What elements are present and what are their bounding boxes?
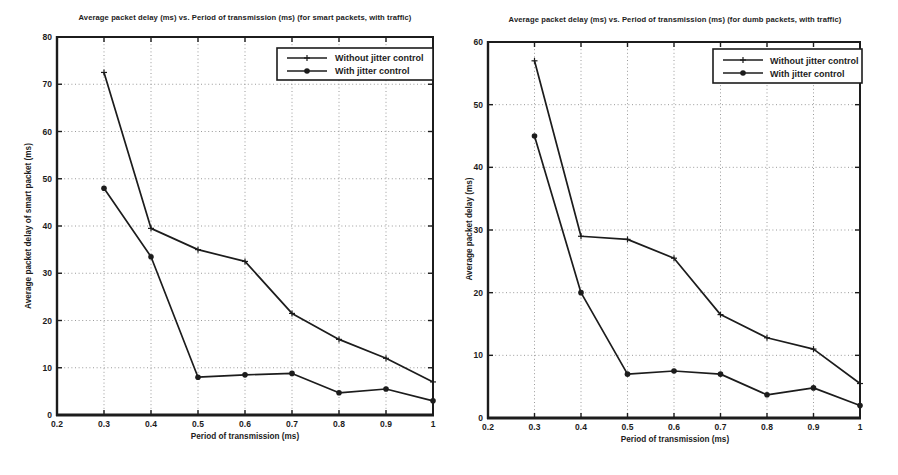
chart-smart-packets: 0.20.30.40.50.60.70.80.91010203040506070…: [0, 0, 449, 475]
chart-canvas-dumb-packets: 0.20.30.40.50.60.70.80.910102030405060 A…: [449, 0, 898, 475]
chart-plot-group: 0.20.30.40.50.60.70.80.91010203040506070…: [43, 32, 436, 429]
y-axis-label: Average packet delay (ms): [465, 177, 474, 280]
chart-canvas-smart-packets: 0.20.30.40.50.60.70.80.91010203040506070…: [0, 0, 449, 475]
y-tick-label: 80: [43, 32, 53, 42]
x-tick-label: 0.7: [715, 422, 727, 432]
x-axis-label: Period of transmission (ms): [621, 435, 730, 444]
y-tick-label: 10: [474, 350, 484, 360]
x-tick-label: 1: [858, 422, 863, 432]
series-marker-with-jitter: [718, 371, 724, 377]
x-tick-label: 0.8: [761, 422, 773, 432]
x-tick-label: 0.9: [380, 419, 392, 429]
y-tick-label: 30: [43, 268, 53, 278]
chart-plot-group: 0.20.30.40.50.60.70.80.910102030405060: [474, 37, 863, 432]
y-tick-label: 30: [474, 225, 484, 235]
scanned-figure-page: 0.20.30.40.50.60.70.80.91010203040506070…: [0, 0, 898, 475]
legend-entry-without-jitter: Without jitter control: [770, 56, 858, 66]
x-tick-label: 1: [431, 419, 436, 429]
series-marker-with-jitter: [430, 398, 436, 404]
y-tick-label: 40: [474, 162, 484, 172]
y-tick-label: 60: [474, 37, 484, 47]
series-marker-with-jitter: [383, 386, 389, 392]
legend-sample-marker: [304, 68, 310, 74]
series-marker-with-jitter: [532, 133, 538, 139]
x-tick-label: 0.5: [622, 422, 634, 432]
series-marker-with-jitter: [101, 185, 107, 191]
legend-entry-without-jitter: Without jitter control: [335, 53, 423, 63]
x-tick-label: 0.8: [333, 419, 345, 429]
chart-title: Average packet delay (ms) vs. Period of …: [79, 13, 412, 22]
x-tick-label: 0.7: [286, 419, 298, 429]
y-axis-label: Average packet delay of smart packet (ms…: [24, 143, 33, 309]
chart-title: Average packet delay (ms) vs. Period of …: [509, 15, 842, 24]
series-marker-with-jitter: [578, 290, 584, 296]
legend-entry-with-jitter: With jitter control: [335, 66, 409, 76]
x-tick-label: 0.3: [529, 422, 541, 432]
x-tick-label: 0.2: [482, 422, 494, 432]
y-tick-label: 50: [474, 100, 484, 110]
series-marker-with-jitter: [671, 368, 677, 374]
legend-entry-with-jitter: With jitter control: [770, 69, 844, 79]
x-tick-label: 0.5: [192, 419, 204, 429]
series-marker-with-jitter: [289, 371, 295, 377]
x-tick-label: 0.9: [808, 422, 820, 432]
series-line-with-jitter: [104, 188, 433, 401]
y-tick-label: 60: [43, 127, 53, 137]
series-line-with-jitter: [535, 136, 861, 405]
series-marker-with-jitter: [195, 374, 201, 380]
y-tick-label: 20: [43, 316, 53, 326]
series-marker-with-jitter: [811, 385, 817, 391]
y-tick-label: 0: [47, 410, 52, 420]
x-axis-label: Period of transmission (ms): [191, 432, 300, 441]
series-marker-with-jitter: [336, 390, 342, 396]
legend-sample-marker: [740, 70, 746, 76]
series-marker-with-jitter: [857, 403, 863, 409]
y-tick-label: 50: [43, 174, 53, 184]
y-tick-label: 20: [474, 288, 484, 298]
y-tick-label: 40: [43, 221, 53, 231]
series-marker-with-jitter: [242, 372, 248, 378]
x-tick-label: 0.2: [51, 419, 63, 429]
y-tick-label: 70: [43, 79, 53, 89]
chart-dumb-packets: 0.20.30.40.50.60.70.80.910102030405060 A…: [449, 0, 898, 475]
y-tick-label: 0: [478, 413, 483, 423]
x-tick-label: 0.4: [575, 422, 587, 432]
series-marker-with-jitter: [625, 371, 631, 377]
series-line-without-jitter: [535, 61, 861, 384]
series-marker-with-jitter: [148, 254, 154, 260]
series-line-without-jitter: [104, 72, 433, 381]
x-tick-label: 0.6: [239, 419, 251, 429]
x-tick-label: 0.3: [98, 419, 110, 429]
x-tick-label: 0.4: [145, 419, 157, 429]
y-tick-label: 10: [43, 363, 53, 373]
x-tick-label: 0.6: [668, 422, 680, 432]
series-marker-with-jitter: [764, 392, 770, 398]
